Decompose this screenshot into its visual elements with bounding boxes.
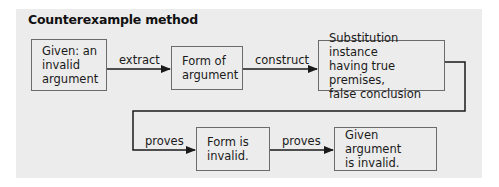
node-given-invalid-argument: Given: an invalid argument (31, 39, 107, 91)
node-substitution-instance: Substitution instance having true premis… (318, 40, 445, 91)
node-form-of-argument: Form of argument (171, 46, 243, 90)
edge-label-extract: extract (119, 53, 160, 67)
edge-label-proves-1: proves (145, 134, 184, 148)
node-given-argument-invalid: Given argument is invalid. (334, 127, 437, 171)
node-form-is-invalid: Form is invalid. (196, 127, 270, 171)
edge-label-construct: construct (255, 53, 309, 67)
edge-label-proves-2: proves (282, 134, 321, 148)
